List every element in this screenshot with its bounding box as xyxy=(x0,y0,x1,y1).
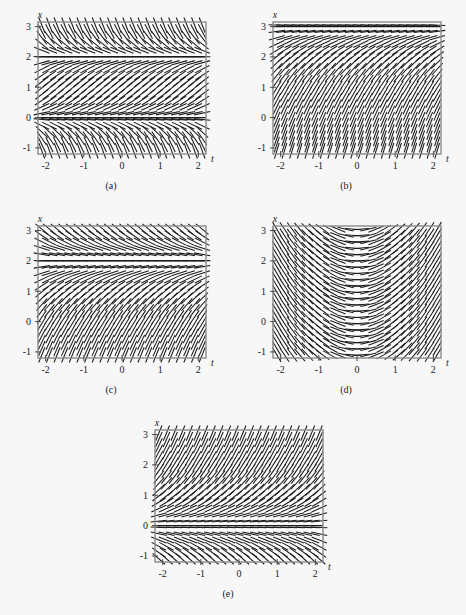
x-tick-label: 1 xyxy=(393,364,398,375)
slope-field-figure: -2-1012-10123xt (a) -2-1012-10123xt (b) … xyxy=(0,0,466,615)
panel-d: -2-1012-10123xt xyxy=(243,212,449,384)
y-tick-label: -1 xyxy=(258,142,266,153)
x-tick-label: 2 xyxy=(431,364,436,375)
slope-field-plot-c: -2-1012-10123xt xyxy=(8,212,214,384)
x-tick-label: -1 xyxy=(197,568,205,579)
y-tick-label: -1 xyxy=(140,550,148,561)
x-tick-label: -2 xyxy=(41,160,49,171)
x-tick-label: 0 xyxy=(120,364,125,375)
y-tick-label: 2 xyxy=(143,459,148,470)
y-tick-label: 2 xyxy=(26,51,31,62)
y-axis-label: x xyxy=(272,213,278,224)
x-axis-label: t xyxy=(446,357,449,368)
x-tick-label: -2 xyxy=(41,364,49,375)
y-tick-label: 3 xyxy=(261,21,266,32)
x-tick-label: 2 xyxy=(431,160,436,171)
slope-field-plot-d: -2-1012-10123xt xyxy=(243,212,449,384)
y-tick-label: -1 xyxy=(23,346,31,357)
x-tick-label: -2 xyxy=(276,160,284,171)
y-tick-label: 1 xyxy=(143,490,148,501)
y-tick-label: 3 xyxy=(26,21,31,32)
x-tick-label: 2 xyxy=(196,160,201,171)
panel-e-caption: (e) xyxy=(125,588,331,599)
x-axis-label: t xyxy=(328,561,331,572)
x-tick-label: 1 xyxy=(158,364,163,375)
panel-c: -2-1012-10123xt xyxy=(8,212,214,384)
y-tick-label: 1 xyxy=(261,286,266,297)
y-tick-label: 2 xyxy=(26,255,31,266)
x-tick-label: 0 xyxy=(237,568,242,579)
y-tick-label: 2 xyxy=(261,255,266,266)
y-tick-label: 3 xyxy=(261,225,266,236)
y-tick-label: -1 xyxy=(23,142,31,153)
y-tick-label: 0 xyxy=(261,112,266,123)
x-tick-label: 2 xyxy=(313,568,318,579)
x-axis-label: t xyxy=(211,357,214,368)
y-tick-label: 1 xyxy=(261,82,266,93)
x-tick-label: -1 xyxy=(315,364,323,375)
panel-b-caption: (b) xyxy=(243,180,449,191)
y-tick-label: -1 xyxy=(258,346,266,357)
panel-a: -2-1012-10123xt xyxy=(8,8,214,180)
x-tick-label: 0 xyxy=(355,160,360,171)
y-tick-label: 2 xyxy=(261,51,266,62)
x-tick-label: 0 xyxy=(355,364,360,375)
x-tick-label: 0 xyxy=(120,160,125,171)
panel-d-caption: (d) xyxy=(243,384,449,395)
y-axis-label: x xyxy=(37,213,43,224)
x-tick-label: 1 xyxy=(393,160,398,171)
y-tick-label: 0 xyxy=(143,520,148,531)
y-axis-label: x xyxy=(37,9,43,20)
slope-field-plot-b: -2-1012-10123xt xyxy=(243,8,449,180)
y-tick-label: 0 xyxy=(261,316,266,327)
y-tick-label: 0 xyxy=(26,316,31,327)
slope-field-plot-a: -2-1012-10123xt xyxy=(8,8,214,180)
y-axis-label: x xyxy=(154,417,160,428)
x-tick-label: -2 xyxy=(158,568,166,579)
x-tick-label: 1 xyxy=(275,568,280,579)
y-tick-label: 3 xyxy=(143,429,148,440)
panel-b: -2-1012-10123xt xyxy=(243,8,449,180)
x-axis-label: t xyxy=(211,153,214,164)
y-axis-label: x xyxy=(272,9,278,20)
x-tick-label: -1 xyxy=(80,160,88,171)
x-tick-label: -1 xyxy=(80,364,88,375)
x-tick-label: 2 xyxy=(196,364,201,375)
panel-c-caption: (c) xyxy=(8,384,214,395)
panel-e: -2-1012-10123xt xyxy=(125,416,331,588)
x-tick-label: 1 xyxy=(158,160,163,171)
y-tick-label: 3 xyxy=(26,225,31,236)
x-tick-label: -1 xyxy=(315,160,323,171)
slope-field-plot-e: -2-1012-10123xt xyxy=(125,416,331,588)
y-tick-label: 1 xyxy=(26,286,31,297)
x-axis-label: t xyxy=(446,153,449,164)
x-tick-label: -2 xyxy=(276,364,284,375)
y-tick-label: 1 xyxy=(26,82,31,93)
y-tick-label: 0 xyxy=(26,112,31,123)
panel-a-caption: (a) xyxy=(8,180,214,191)
